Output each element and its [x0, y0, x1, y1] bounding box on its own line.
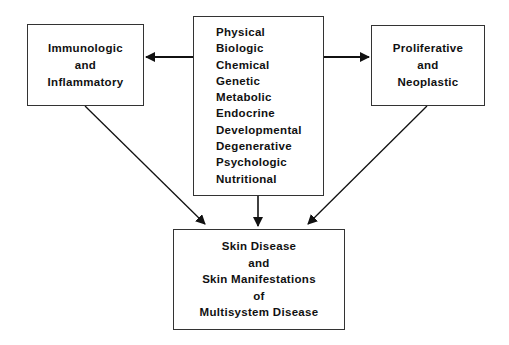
arrow-left-to-bottom [85, 106, 205, 224]
left-line-3: Inflammatory [48, 74, 124, 91]
bottom-line-4: of [253, 288, 264, 305]
causes-box: Physical Biologic Chemical Genetic Metab… [193, 16, 324, 196]
right-line-2: and [417, 57, 438, 74]
cause-item: Genetic [216, 73, 302, 89]
left-line-2: and [75, 57, 96, 74]
right-line-1: Proliferative [393, 40, 463, 57]
bottom-line-1: Skin Disease [222, 238, 297, 255]
skin-disease-box: Skin Disease and Skin Manifestations of … [173, 229, 345, 330]
cause-list: Physical Biologic Chemical Genetic Metab… [216, 24, 302, 187]
cause-item: Biologic [216, 40, 302, 56]
right-line-3: Neoplastic [397, 74, 458, 91]
cause-item: Endocrine [216, 105, 302, 121]
immunologic-inflammatory-box: Immunologic and Inflammatory [27, 24, 144, 106]
cause-item: Degenerative [216, 138, 302, 154]
proliferative-neoplastic-box: Proliferative and Neoplastic [371, 25, 485, 106]
cause-item: Metabolic [216, 89, 302, 105]
cause-item: Chemical [216, 57, 302, 73]
left-line-1: Immunologic [48, 40, 123, 57]
bottom-line-3: Skin Manifestations [202, 271, 316, 288]
bottom-line-5: Multisystem Disease [200, 304, 319, 321]
bottom-line-2: and [248, 255, 269, 272]
arrow-right-to-bottom [308, 106, 427, 224]
cause-item: Developmental [216, 122, 302, 138]
cause-item: Physical [216, 24, 302, 40]
cause-item: Nutritional [216, 171, 302, 187]
cause-item: Psychologic [216, 154, 302, 170]
